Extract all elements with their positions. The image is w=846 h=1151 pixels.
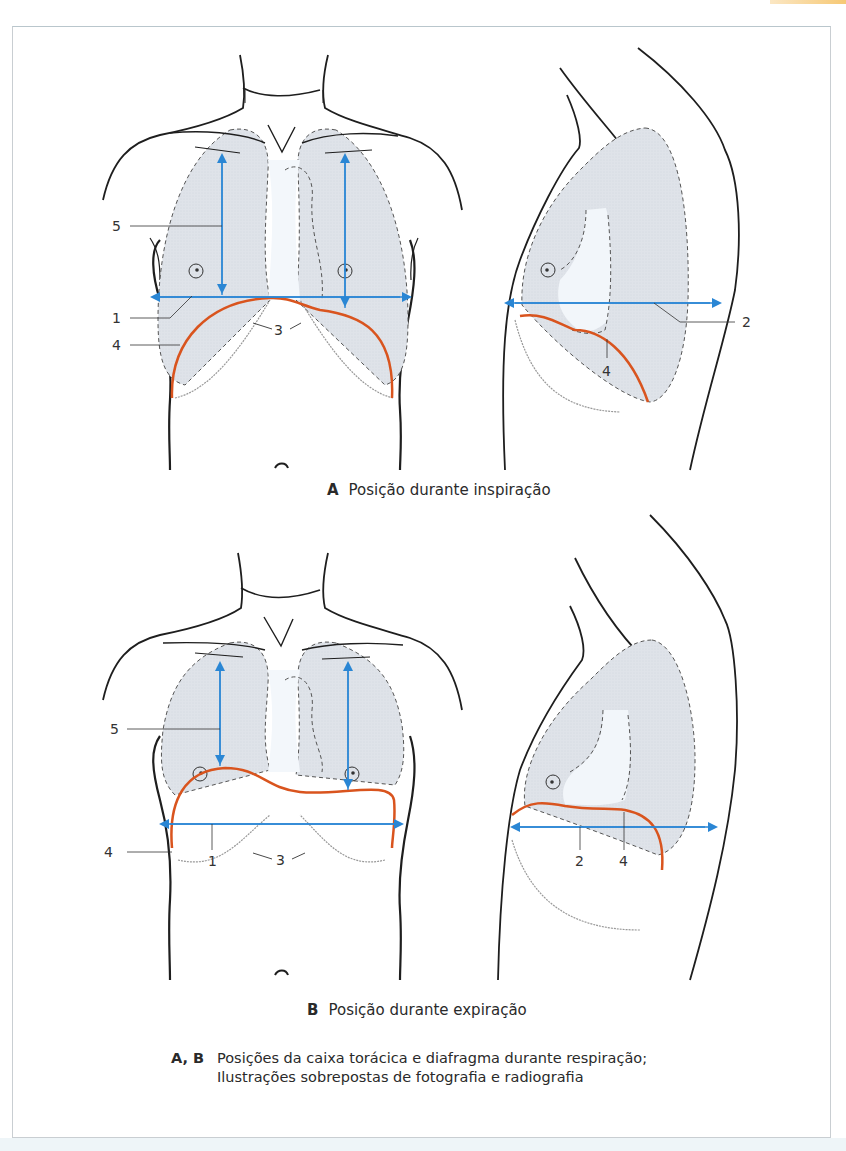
legend-line-1: Posições da caixa torácica e diafragma d… [217,1050,647,1066]
label-3-b: 3 [276,852,285,868]
caption-b-letter: B [307,1001,318,1019]
panel-a-side-view [503,48,739,470]
label-3-a: 3 [274,322,283,338]
label-4-b-side: 4 [619,853,628,869]
label-5-a: 5 [112,218,121,234]
label-1-a: 1 [112,310,121,326]
label-4-b: 4 [104,844,113,860]
caption-a-letter: A [327,481,339,499]
caption-panel-a: APosição durante inspiração [327,481,551,499]
caption-b-text: Posição durante expiração [328,1001,526,1019]
panel-b-front-view [103,553,462,980]
label-1-b: 1 [208,853,217,869]
label-2-b: 2 [575,853,584,869]
figure-legend: A, BPosições da caixa torácica e diafrag… [171,1049,647,1087]
label-4-a-side: 4 [602,363,611,379]
caption-a-text: Posição durante inspiração [349,481,551,499]
legend-line-2: Ilustrações sobrepostas de fotografia e … [171,1068,647,1087]
legend-letters: A, B [171,1049,217,1068]
label-5-b: 5 [110,721,119,737]
panel-a-front-view [103,55,462,470]
label-4-a: 4 [112,337,121,353]
label-2-a: 2 [742,314,751,330]
anatomy-illustration: 5 1 4 3 2 4 [0,0,846,1151]
panel-b-side-view [498,515,737,980]
caption-panel-b: BPosição durante expiração [307,1001,527,1019]
